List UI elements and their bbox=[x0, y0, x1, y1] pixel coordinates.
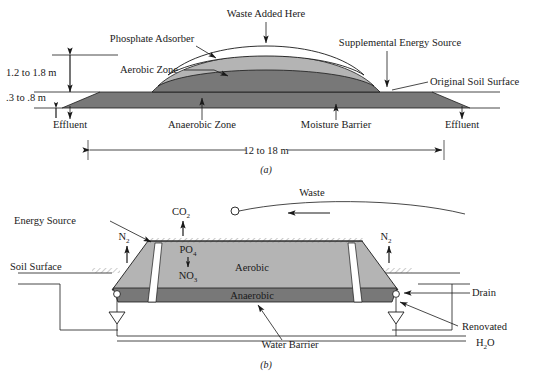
label-aerobic-zone: Aerobic Zone bbox=[120, 64, 178, 75]
label-dim-width: 12 to 18 m bbox=[243, 145, 288, 156]
label-dim-mound-height: 1.2 to 1.8 m bbox=[6, 67, 56, 78]
native-soil-hatch-left bbox=[92, 268, 120, 273]
label-waste: Waste bbox=[299, 187, 325, 198]
mound-crest-hatch bbox=[147, 238, 363, 243]
label-anaerobic-b: Anaerobic bbox=[230, 290, 274, 301]
label-dim-soil-depth: .3 to .8 m bbox=[6, 92, 46, 103]
label-aerobic-b: Aerobic bbox=[235, 262, 269, 273]
label-waste-added-here: Waste Added Here bbox=[227, 8, 306, 19]
label-original-soil-surface: Original Soil Surface bbox=[430, 76, 520, 87]
caption-panel-b: (b) bbox=[260, 359, 272, 371]
sprinkler-head-icon bbox=[231, 207, 239, 215]
mound-diagram-svg: Waste Added Here Phosphate Adsorber Supp… bbox=[0, 0, 534, 380]
drain-pipe-right bbox=[393, 291, 400, 298]
drain-pipe-left bbox=[114, 291, 121, 298]
figure-container: Waste Added Here Phosphate Adsorber Supp… bbox=[0, 0, 534, 380]
caption-panel-a: (a) bbox=[260, 164, 272, 176]
soil-body-shape bbox=[62, 92, 470, 108]
label-effluent-left: Effluent bbox=[53, 119, 87, 130]
label-energy-source: Energy Source bbox=[14, 215, 76, 226]
label-soil-surface-b: Soil Surface bbox=[10, 261, 62, 272]
label-phosphate-adsorber: Phosphate Adsorber bbox=[110, 33, 195, 44]
label-drain: Drain bbox=[472, 287, 497, 298]
label-renovated: Renovated bbox=[462, 321, 508, 332]
label-moisture-barrier: Moisture Barrier bbox=[301, 119, 372, 130]
label-water-barrier: Water Barrier bbox=[261, 339, 319, 350]
label-effluent-right: Effluent bbox=[445, 119, 479, 130]
label-anaerobic-zone: Anaerobic Zone bbox=[168, 119, 236, 130]
label-supplemental-energy-source: Supplemental Energy Source bbox=[339, 37, 462, 48]
